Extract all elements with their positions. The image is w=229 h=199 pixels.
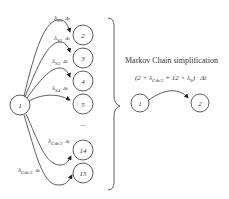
svg-text:λCdr/2Δt: λCdr/2Δt xyxy=(47,137,70,146)
curly-brace xyxy=(108,18,120,190)
simplification-title: Markov Chain simplification xyxy=(125,56,218,65)
rate-label-s1: λS1Δt xyxy=(53,14,70,23)
rate-label-cdr-15: λCdr/2Δt xyxy=(17,166,40,175)
node-3: 3 xyxy=(73,48,93,68)
svg-text:λS4Δt: λS4Δt xyxy=(51,84,68,93)
svg-text:3: 3 xyxy=(80,55,85,63)
svg-text:λS1Δt: λS1Δt xyxy=(53,14,70,23)
rate-label-s3: λS3Δt xyxy=(51,57,68,66)
rate-label-s4: λS4Δt xyxy=(51,84,68,93)
node-2: 2 xyxy=(73,25,93,45)
simplified-transition-arc xyxy=(149,91,188,100)
rate-label-cdr-14: λCdr/2Δt xyxy=(47,137,70,146)
ellipsis: ... xyxy=(80,120,86,128)
node-4: 4 xyxy=(73,71,93,91)
svg-text:14: 14 xyxy=(80,147,88,155)
node-15: 15 xyxy=(73,163,93,183)
svg-text:5: 5 xyxy=(81,101,85,109)
node-14: 14 xyxy=(73,140,93,160)
svg-text:15: 15 xyxy=(80,170,88,178)
simplified-node-2: 2 xyxy=(191,94,209,112)
svg-text:2: 2 xyxy=(198,100,202,108)
svg-text:2: 2 xyxy=(81,32,85,40)
rate-label-s2: λS2Δt xyxy=(53,34,70,43)
combined-rate-formula: (2 × λCdr/2 + 12 × λS) · Δt xyxy=(135,74,207,83)
svg-text:4: 4 xyxy=(81,78,85,86)
transition-arcs xyxy=(24,20,72,185)
svg-text:1: 1 xyxy=(18,102,22,110)
svg-text:λCdr/2Δt: λCdr/2Δt xyxy=(17,166,40,175)
simplified-node-1: 1 xyxy=(131,94,149,112)
svg-text:λS3Δt: λS3Δt xyxy=(51,57,68,66)
node-5: 5 xyxy=(73,94,93,114)
markov-diagram: 1 2 3 4 5 ... 14 15 λS1Δt λS2Δt λS3Δt λS… xyxy=(0,0,229,199)
svg-text:1: 1 xyxy=(138,100,142,108)
svg-text:λS2Δt: λS2Δt xyxy=(53,34,70,43)
